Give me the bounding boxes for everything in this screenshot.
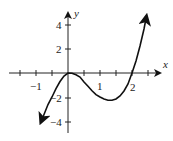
x-tick-label-2: 2 bbox=[130, 81, 136, 93]
y-axis-label: y bbox=[73, 7, 79, 19]
y-tick-label-2: 2 bbox=[56, 43, 62, 55]
cubic-graph: x y −1 1 2 4 2 −2 −4 bbox=[0, 0, 173, 141]
y-tick-label-minus4: −4 bbox=[50, 116, 62, 128]
y-tick-label-4: 4 bbox=[56, 19, 62, 31]
chart: x y −1 1 2 4 2 −2 −4 bbox=[0, 0, 173, 141]
x-tick-label-minus1: −1 bbox=[30, 80, 42, 92]
x-tick-label-1: 1 bbox=[97, 80, 103, 92]
x-axis-label: x bbox=[162, 58, 168, 70]
y-tick-label-minus2: −2 bbox=[50, 92, 62, 104]
curve bbox=[41, 16, 147, 122]
